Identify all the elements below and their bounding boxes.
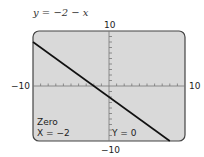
x-min-label: −10 <box>11 81 30 91</box>
x-max-label: 10 <box>189 81 201 91</box>
y-max-label: 10 <box>104 20 116 30</box>
x-readout: X = −2 <box>37 128 70 138</box>
graph-figure: y = −2 − x 10 −10 −10 10 Zero X = −2 Y =… <box>0 0 204 157</box>
y-readout: Y = 0 <box>111 128 137 138</box>
y-min-label: −10 <box>101 145 120 155</box>
mode-label: Zero <box>37 117 58 127</box>
equation-title: y = −2 − x <box>32 7 89 18</box>
